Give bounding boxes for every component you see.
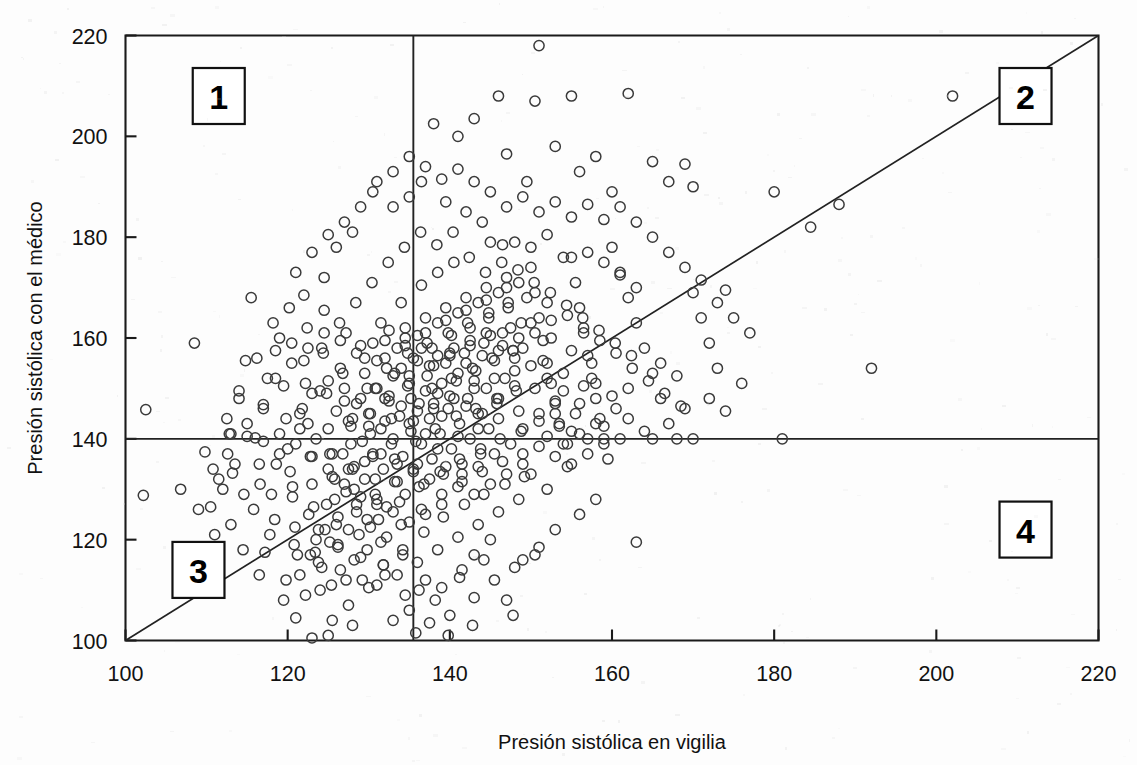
data-point [287, 358, 297, 368]
quadrant-1: 1 [193, 68, 245, 124]
data-point [550, 141, 560, 151]
data-point [631, 537, 641, 547]
data-point [489, 449, 499, 459]
data-point [292, 550, 302, 560]
data-point [438, 512, 448, 522]
data-point [664, 419, 674, 429]
data-point [566, 346, 576, 356]
data-point [518, 192, 528, 202]
data-point [497, 328, 507, 338]
identity-line [126, 36, 1099, 641]
data-point [287, 482, 297, 492]
data-point [500, 373, 510, 383]
data-point [603, 454, 613, 464]
data-point [510, 353, 520, 363]
data-point [672, 371, 682, 381]
data-point [396, 401, 406, 411]
data-point [647, 156, 657, 166]
data-point [947, 91, 957, 101]
data-point [356, 202, 366, 212]
data-point [291, 613, 301, 623]
data-point [279, 595, 289, 605]
data-point [518, 343, 528, 353]
data-point [441, 303, 451, 313]
data-point [433, 545, 443, 555]
data-point [400, 323, 410, 333]
data-point [326, 580, 336, 590]
data-point [574, 509, 584, 519]
quadrant-label: 4 [1016, 512, 1035, 550]
data-point [453, 131, 463, 141]
data-point [623, 293, 633, 303]
x-tick-label: 140 [432, 662, 468, 686]
data-point [489, 575, 499, 585]
data-point [254, 570, 264, 580]
data-point [206, 502, 216, 512]
data-point [479, 489, 489, 499]
data-point [769, 187, 779, 197]
data-point [664, 247, 674, 257]
data-point [341, 575, 351, 585]
data-point [737, 378, 747, 388]
data-point [370, 474, 380, 484]
data-point [254, 459, 264, 469]
data-point [518, 459, 528, 469]
data-point [339, 479, 349, 489]
data-point [420, 161, 430, 171]
y-tick-label: 140 [72, 428, 108, 452]
data-point [501, 202, 511, 212]
data-point [461, 293, 471, 303]
data-point [610, 338, 620, 348]
data-point [238, 545, 248, 555]
data-point [319, 328, 329, 338]
data-point [574, 167, 584, 177]
data-point [378, 560, 388, 570]
data-point [607, 187, 617, 197]
data-point [383, 257, 393, 267]
data-point [534, 441, 544, 451]
data-point [542, 431, 552, 441]
data-point [506, 439, 516, 449]
data-point [514, 277, 524, 287]
data-points-layer [138, 40, 957, 643]
data-point [550, 197, 560, 207]
data-point [720, 406, 730, 416]
data-point [443, 630, 453, 640]
data-point [346, 439, 356, 449]
data-point [416, 227, 426, 237]
data-point [469, 550, 479, 560]
data-point [485, 187, 495, 197]
data-point [437, 174, 447, 184]
data-point [376, 318, 386, 328]
data-point [290, 522, 300, 532]
data-point [284, 303, 294, 313]
data-point [399, 242, 409, 252]
data-point [510, 237, 520, 247]
data-point [249, 504, 259, 514]
data-point [485, 535, 495, 545]
data-point [334, 318, 344, 328]
data-point [591, 494, 601, 504]
data-point [550, 409, 560, 419]
data-point [222, 414, 232, 424]
data-point [712, 363, 722, 373]
data-point [453, 532, 463, 542]
data-point [319, 272, 329, 282]
data-point [688, 182, 698, 192]
data-point [704, 338, 714, 348]
data-point [422, 371, 432, 381]
data-point [461, 401, 471, 411]
data-point [319, 305, 329, 315]
data-point [647, 232, 657, 242]
data-point [510, 562, 520, 572]
data-point [265, 530, 275, 540]
data-point [347, 620, 357, 630]
data-point [429, 119, 439, 129]
data-point [656, 358, 666, 368]
data-point [287, 338, 297, 348]
data-point [558, 386, 568, 396]
data-point [400, 590, 410, 600]
data-point [373, 514, 383, 524]
data-point [558, 368, 568, 378]
data-point [437, 489, 447, 499]
